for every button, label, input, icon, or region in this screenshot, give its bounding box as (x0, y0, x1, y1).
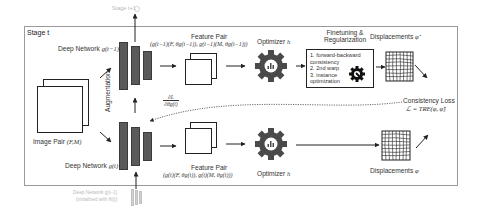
optimizer-gear-top (255, 50, 287, 82)
optimizer-gear-bottom (255, 128, 287, 160)
gradient-feedback-arrow (150, 102, 402, 121)
arrow-image-to-top-net (100, 68, 111, 78)
arrow-image-to-bottom-net (100, 132, 111, 142)
wrench-gear-icon (349, 66, 365, 82)
displacement-grid-top (386, 52, 413, 81)
displacement-grid-bottom (382, 131, 410, 160)
diagram-graphics (0, 0, 481, 214)
